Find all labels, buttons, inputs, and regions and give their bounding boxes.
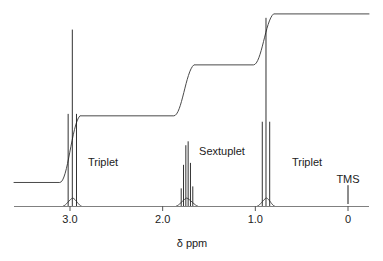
annotation-labels: Triplet Sextuplet Triplet TMS bbox=[88, 145, 360, 185]
annotation-triplet-b: Triplet bbox=[292, 156, 322, 168]
nmr-spectrum-figure: 3.02.01.00 Triplet Sextuplet Triplet TMS… bbox=[0, 0, 383, 261]
peaks-group bbox=[63, 18, 275, 206]
annotation-sextuplet: Sextuplet bbox=[199, 145, 245, 157]
x-tick-label-0: 3.0 bbox=[62, 213, 77, 225]
x-tick-label-2: 1.0 bbox=[248, 213, 263, 225]
x-tick-label-1: 2.0 bbox=[155, 213, 170, 225]
multiplet-sextuplet bbox=[176, 141, 198, 206]
x-axis-title: δ ppm bbox=[177, 237, 208, 249]
annotation-triplet-a: Triplet bbox=[88, 156, 118, 168]
x-axis-group: 3.02.01.00 bbox=[14, 206, 369, 225]
peak-base-hump bbox=[176, 198, 198, 206]
annotation-tms: TMS bbox=[336, 173, 359, 185]
x-tick-label-3: 0 bbox=[345, 213, 351, 225]
spectrum-canvas: 3.02.01.00 Triplet Sextuplet Triplet TMS… bbox=[0, 0, 383, 261]
multiplet-triplet-b bbox=[257, 18, 274, 206]
x-axis-ticks: 3.02.01.00 bbox=[62, 206, 351, 225]
